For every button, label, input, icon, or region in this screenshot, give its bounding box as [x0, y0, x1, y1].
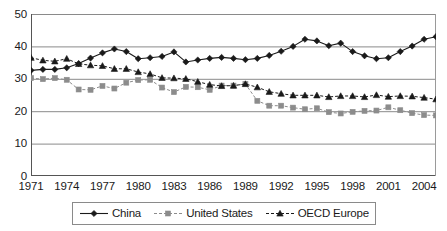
legend-label: China — [112, 208, 141, 220]
legend-label: United States — [186, 208, 252, 220]
data-point-marker — [314, 38, 320, 44]
data-point-marker — [171, 90, 176, 95]
data-point-marker — [433, 34, 436, 40]
data-point-marker — [279, 103, 284, 108]
data-point-marker — [433, 96, 436, 102]
legend-entry-china[interactable]: China — [79, 208, 141, 220]
legend-entry-oecd-europe[interactable]: OECD Europe — [265, 208, 369, 220]
data-point-marker — [31, 76, 34, 81]
legend-swatch-square-icon — [153, 208, 183, 219]
x-axis-tick-label: 1983 — [162, 181, 187, 193]
data-point-marker — [52, 76, 57, 81]
legend-swatch-diamond-icon — [79, 208, 109, 219]
x-axis-labels: 1971197419771980198319861989199219951998… — [0, 181, 447, 197]
data-point-marker — [373, 92, 379, 98]
data-point-marker — [398, 108, 403, 113]
data-point-marker — [40, 66, 46, 72]
data-point-marker — [361, 53, 367, 59]
data-point-marker — [40, 77, 45, 82]
data-point-marker — [135, 56, 141, 62]
data-point-marker — [230, 55, 236, 61]
data-point-marker — [123, 48, 129, 54]
data-point-marker — [183, 84, 188, 89]
x-axis-tick-label: 1977 — [90, 181, 115, 193]
data-point-marker — [99, 50, 105, 56]
data-point-marker — [64, 77, 69, 82]
data-point-marker — [171, 75, 177, 81]
data-point-marker — [64, 56, 70, 62]
data-point-marker — [87, 62, 93, 68]
data-point-marker — [136, 78, 141, 83]
data-point-marker — [76, 87, 81, 92]
data-point-marker — [242, 57, 248, 63]
data-point-marker — [410, 111, 415, 116]
data-point-marker — [314, 92, 320, 98]
data-point-marker — [338, 111, 343, 116]
data-point-marker — [159, 53, 165, 59]
data-point-marker — [195, 85, 200, 90]
plot-area — [31, 14, 436, 176]
data-point-marker — [52, 66, 58, 72]
data-point-marker — [397, 48, 403, 54]
data-point-marker — [434, 113, 437, 118]
data-point-marker — [64, 65, 70, 71]
data-point-marker — [374, 108, 379, 113]
data-point-marker — [267, 103, 272, 108]
legend-label: OECD Europe — [298, 208, 369, 220]
data-point-marker — [147, 71, 153, 77]
y-axis-tick-label: 20 — [3, 106, 27, 118]
y-axis-tick-label: 30 — [3, 73, 27, 85]
legend-entry-united-states[interactable]: United States — [153, 208, 252, 220]
data-point-marker — [148, 77, 153, 82]
chart-legend: ChinaUnited StatesOECD Europe — [72, 202, 376, 225]
data-point-marker — [160, 85, 165, 90]
data-point-marker — [31, 55, 34, 61]
y-axis-tick-label: 10 — [3, 138, 27, 150]
x-axis-tick-label: 1980 — [126, 181, 151, 193]
data-point-marker — [302, 36, 308, 42]
x-axis-tick-label: 1998 — [340, 181, 365, 193]
y-axis-tick-label: 40 — [3, 41, 27, 53]
data-point-marker — [254, 84, 260, 90]
data-point-marker — [40, 57, 46, 63]
data-point-marker — [421, 36, 427, 42]
data-point-marker — [278, 48, 284, 54]
data-point-marker — [409, 43, 415, 49]
data-point-marker — [254, 55, 260, 61]
data-point-marker — [31, 67, 34, 73]
data-point-marker — [266, 52, 272, 58]
data-point-marker — [302, 107, 307, 112]
data-point-marker — [291, 105, 296, 110]
x-axis-tick-label: 2001 — [376, 181, 401, 193]
chart-plot-svg — [31, 14, 436, 176]
data-point-marker — [290, 43, 296, 49]
y-axis-tick-label: 50 — [3, 9, 27, 21]
data-point-marker — [207, 87, 212, 92]
data-point-marker — [88, 87, 93, 92]
x-axis-tick-label: 1986 — [197, 181, 222, 193]
data-point-marker — [207, 55, 213, 61]
legend-swatch-triangle-icon — [265, 208, 295, 219]
data-point-marker — [386, 105, 391, 110]
data-point-marker — [362, 108, 367, 113]
x-axis-tick-label: 2004 — [412, 181, 437, 193]
data-point-marker — [314, 106, 319, 111]
data-point-marker — [266, 89, 272, 95]
data-point-marker — [218, 54, 224, 60]
data-point-marker — [100, 83, 105, 88]
data-point-marker — [278, 91, 284, 97]
data-point-marker — [326, 110, 331, 115]
data-point-marker — [195, 57, 201, 63]
data-point-marker — [385, 55, 391, 61]
data-point-marker — [87, 55, 93, 61]
x-axis-tick-label: 1971 — [19, 181, 44, 193]
data-point-marker — [326, 43, 332, 49]
data-point-marker — [255, 98, 260, 103]
x-axis-tick-label: 1995 — [304, 181, 329, 193]
x-axis-tick-label: 1974 — [54, 181, 79, 193]
data-point-marker — [422, 113, 427, 118]
data-point-marker — [350, 109, 355, 114]
x-axis-tick-label: 1989 — [233, 181, 258, 193]
chart-container: 01020304050 1971197419771980198319861989… — [0, 0, 447, 231]
data-point-marker — [147, 55, 153, 61]
